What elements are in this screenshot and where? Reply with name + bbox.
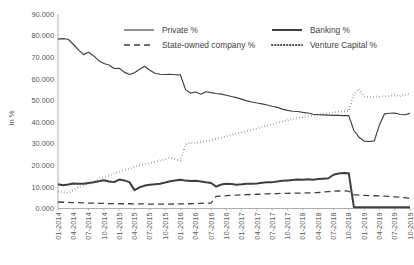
legend-label: State-owned company %	[162, 40, 256, 50]
y-tick-label: 50.000	[31, 96, 54, 105]
x-tick-label: 07-2017	[268, 213, 277, 240]
x-tick-label: 04-2019	[375, 213, 384, 240]
x-tick-label: 10-2019	[406, 213, 414, 240]
x-axis-tick-labels: 01-201404-201407-201410-201401-201504-20…	[54, 209, 414, 240]
y-tick-label: 30.000	[31, 139, 54, 148]
y-tick-label: 90.000	[31, 10, 54, 19]
x-tick-label: 10-2015	[161, 213, 170, 240]
x-tick-label: 01-2018	[298, 213, 307, 240]
chart-canvas: 0.00010.00020.00030.00040.00050.00060.00…	[0, 0, 414, 265]
x-tick-label: 04-2018	[314, 213, 323, 240]
x-tick-label: 04-2017	[253, 213, 262, 240]
x-tick-label: 10-2014	[100, 213, 109, 240]
x-tick-label: 01-2016	[176, 213, 185, 240]
x-tick-label: 07-2016	[207, 213, 216, 240]
series-lines	[58, 39, 410, 208]
chart-legend: Private %Banking %State-owned company %V…	[124, 25, 378, 50]
y-axis-tick-labels: 0.00010.00020.00030.00040.00050.00060.00…	[31, 10, 54, 214]
x-tick-label: 01-2015	[115, 213, 124, 240]
legend-label: Private %	[162, 25, 198, 35]
y-tick-label: 80.000	[31, 31, 54, 40]
x-tick-label: 01-2019	[360, 213, 369, 240]
series-line	[58, 191, 410, 204]
y-tick-label: 60.000	[31, 75, 54, 84]
series-line	[58, 89, 410, 193]
x-tick-label: 10-2016	[222, 213, 231, 240]
y-axis-title: In %	[7, 110, 16, 125]
line-chart: 0.00010.00020.00030.00040.00050.00060.00…	[0, 0, 414, 265]
legend-label: Venture Capital %	[310, 40, 378, 50]
y-tick-label: 70.000	[31, 53, 54, 62]
x-tick-label: 10-2018	[344, 213, 353, 240]
x-tick-label: 04-2014	[69, 213, 78, 240]
x-tick-label: 07-2015	[145, 213, 154, 240]
y-tick-label: 10.000	[31, 183, 54, 192]
x-tick-label: 07-2018	[329, 213, 338, 240]
x-tick-label: 07-2019	[390, 213, 399, 240]
y-tick-label: 0.000	[36, 204, 55, 213]
x-tick-label: 04-2015	[130, 213, 139, 240]
y-tick-label: 20.000	[31, 161, 54, 170]
series-line	[58, 173, 410, 207]
x-tick-label: 10-2017	[283, 213, 292, 240]
x-tick-label: 01-2017	[237, 213, 246, 240]
legend-label: Banking %	[310, 25, 351, 35]
x-tick-label: 07-2014	[84, 213, 93, 240]
x-tick-label: 01-2014	[54, 213, 63, 240]
y-tick-label: 40.000	[31, 118, 54, 127]
x-tick-label: 04-2016	[191, 213, 200, 240]
